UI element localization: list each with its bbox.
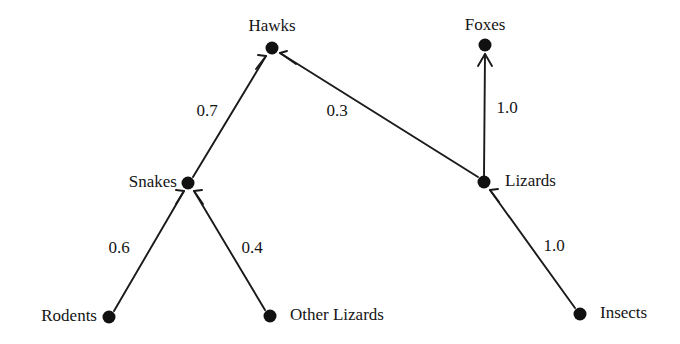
node-label-lizards: Lizards <box>505 172 556 189</box>
arrowhead-lizards-to-hawks <box>280 51 296 64</box>
node-label-foxes: Foxes <box>465 16 506 33</box>
arrowhead-insects-to-lizards <box>490 189 499 202</box>
node-dot-hawks[interactable] <box>266 42 279 55</box>
food-web-canvas <box>0 0 680 344</box>
node-dot-foxes[interactable] <box>479 39 492 52</box>
node-label-rodents: Rodents <box>41 307 97 324</box>
edge-label-snakes-to-hawks: 0.7 <box>196 102 217 119</box>
node-label-snakes: Snakes <box>129 173 177 190</box>
node-label-insects: Insects <box>600 304 647 321</box>
node-dot-snakes[interactable] <box>182 177 195 190</box>
node-dot-lizards[interactable] <box>478 176 491 189</box>
node-dot-other-lizards[interactable] <box>264 310 277 323</box>
arrowhead-otherlizards-to-snakes <box>194 190 203 204</box>
arrowhead-rodents-to-snakes <box>176 190 184 204</box>
arrowhead-snakes-to-hawks <box>256 55 266 69</box>
edge-label-rodents-to-snakes: 0.6 <box>108 239 129 256</box>
arrowhead-group <box>176 51 499 204</box>
edge-label-insects-to-lizards: 1.0 <box>543 237 564 254</box>
edge-label-lizards-to-foxes: 1.0 <box>496 99 517 116</box>
edge-label-otherlizards-to-snakes: 0.4 <box>241 239 262 256</box>
node-dot-insects[interactable] <box>574 308 587 321</box>
node-label-other-lizards: Other Lizards <box>290 306 384 323</box>
edge-lizards-to-foxes <box>484 54 485 176</box>
edge-label-lizards-to-hawks: 0.3 <box>326 102 347 119</box>
edge-lizards-to-hawks <box>280 53 478 177</box>
node-dot-rodents[interactable] <box>103 311 116 324</box>
food-web-diagram: Hawks Foxes Snakes Lizards Rodents Other… <box>0 0 680 344</box>
node-label-hawks: Hawks <box>248 17 295 34</box>
